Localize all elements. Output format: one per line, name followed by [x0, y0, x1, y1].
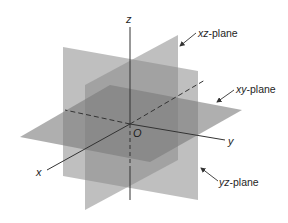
xz-plane-label: xz-plane — [197, 27, 238, 39]
xy-plane-label-var: xy — [235, 83, 247, 95]
xy-plane-label: xy-plane — [235, 83, 276, 95]
yz-plane-label-var: yz — [218, 176, 230, 188]
xz-plane-label-suffix: -plane — [209, 27, 238, 39]
y-axis-label: y — [227, 135, 235, 147]
yz-plane-label: yz-plane — [218, 176, 259, 188]
z-axis-label: z — [125, 13, 132, 25]
xy-plane-label-suffix: -plane — [247, 83, 276, 95]
xy-plane-pointer-arrow — [217, 90, 234, 102]
origin-label: O — [133, 127, 142, 139]
yz-plane-pointer-arrow — [201, 168, 218, 181]
yz-plane-label-suffix: -plane — [230, 176, 259, 188]
x-axis-label: x — [35, 166, 42, 178]
xz-plane-pointer-arrow — [180, 33, 196, 46]
coordinate-planes-diagram: z x y O xz-plane xy-plane yz-plane — [0, 0, 288, 223]
xz-plane-label-var: xz — [197, 27, 209, 39]
